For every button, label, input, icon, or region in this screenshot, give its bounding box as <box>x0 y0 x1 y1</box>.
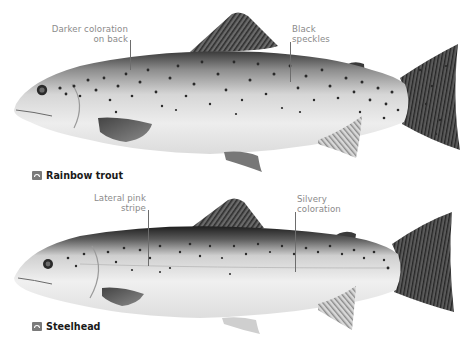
leader-line-silvery-coloration <box>295 212 296 272</box>
leader-line-lateral-stripe <box>148 210 149 266</box>
steelhead-illustration <box>14 198 454 334</box>
leader-line-darker-coloration <box>130 40 131 70</box>
callout-lateral-pink-stripe: Lateral pink stripe <box>78 193 146 213</box>
species-label-steelhead: Steelhead <box>32 321 100 332</box>
expand-collapse-icon[interactable] <box>32 171 42 180</box>
callout-black-speckles: Black speckles <box>292 24 352 44</box>
expand-collapse-icon[interactable] <box>32 322 42 331</box>
species-label-rainbow-trout: Rainbow trout <box>32 170 123 181</box>
fish-comparison-figure: Darker coloration on back Black speckles… <box>0 0 468 353</box>
leader-line-black-speckles <box>290 42 291 82</box>
callout-silvery-coloration: Silvery coloration <box>297 194 357 214</box>
callout-darker-coloration: Darker coloration on back <box>40 24 128 44</box>
